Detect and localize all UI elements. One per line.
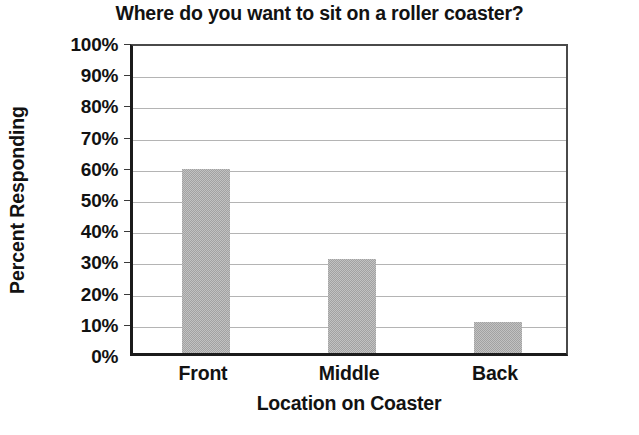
bar-chart: Where do you want to sit on a roller coa…	[0, 0, 639, 435]
y-axis-tick-label: 50%	[81, 191, 118, 210]
x-axis-category-labels: FrontMiddleBack	[130, 362, 568, 390]
plot-area	[130, 44, 568, 356]
y-axis-tick-labels: 0%10%20%30%40%50%60%70%80%90%100%	[34, 44, 124, 356]
y-axis-title-container: Percent Responding	[0, 44, 34, 356]
y-axis-tick-label: 90%	[81, 66, 118, 85]
y-axis-tick-label: 20%	[81, 284, 118, 303]
y-axis-tick-label: 100%	[71, 35, 118, 54]
y-axis-tick-label: 70%	[81, 128, 118, 147]
x-axis-category-label: Front	[179, 362, 228, 385]
bar	[328, 259, 376, 353]
y-axis-title: Percent Responding	[6, 106, 29, 294]
y-axis-tick-label: 60%	[81, 159, 118, 178]
chart-title: Where do you want to sit on a roller coa…	[0, 2, 639, 25]
x-axis-title: Location on Coaster	[130, 392, 568, 415]
y-axis-tick-label: 0%	[91, 347, 118, 366]
y-axis-tick-label: 30%	[81, 253, 118, 272]
bar	[182, 169, 230, 353]
y-axis-tick-label: 40%	[81, 222, 118, 241]
bar	[474, 322, 522, 353]
x-axis-category-label: Middle	[319, 362, 380, 385]
y-axis-tick-label: 80%	[81, 97, 118, 116]
bar-series	[133, 46, 566, 353]
x-axis-category-label: Back	[472, 362, 518, 385]
y-axis-tick-label: 10%	[81, 315, 118, 334]
